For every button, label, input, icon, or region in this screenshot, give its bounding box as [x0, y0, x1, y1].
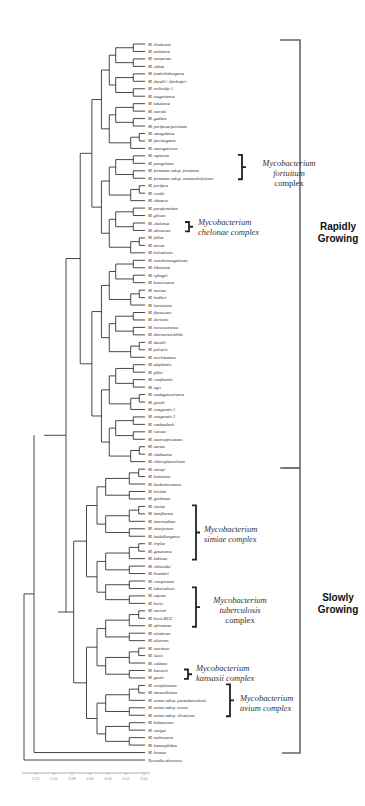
group-label-simiae: Mycobacterium simiae complex [204, 524, 294, 544]
taxon-label: M. goodii [147, 400, 166, 405]
taxon-label: M. novocastrense [147, 325, 178, 330]
taxon-label: M. malmoense [147, 735, 173, 740]
taxon-label: M. shimoidei [147, 564, 171, 569]
taxon-label: M. moriokaense [147, 355, 176, 360]
group-label-line: tuberculosis [205, 605, 275, 615]
taxon-label: M. komossense [147, 280, 174, 285]
taxon-label: M. africanum [147, 623, 171, 628]
taxon-label: M. haemophilum [147, 743, 177, 748]
taxon-label: M. hassiacum [147, 303, 172, 308]
taxon-label: M. elephantis [147, 362, 172, 367]
taxon-label: M. phlei [147, 370, 163, 375]
taxon-label: M. lentiflavum [147, 511, 173, 516]
taxon-label: M. septicum [147, 153, 169, 158]
taxon-label: M. farcinogenes [147, 138, 176, 143]
taxon-label: M. duvalii [147, 340, 166, 345]
taxon-label: M. chlorophenolicum [147, 459, 185, 464]
taxon-label: M. thermoresistibile [147, 332, 183, 337]
taxon-label: M. hiberniae [147, 265, 170, 270]
taxon-label: M. wolinskyi 1 [147, 86, 173, 91]
taxon-label: M. chitae [147, 64, 164, 69]
taxon-label: M. chelonae [147, 221, 169, 226]
taxon-label: M. agri [147, 385, 162, 390]
taxon-label: M. branae [147, 750, 166, 755]
group-label-line: Mycobacterium [196, 663, 291, 673]
scale-tick-label: 0.12 [33, 777, 40, 781]
taxon-label: M. porifera [147, 183, 168, 188]
phylogenetic-tree: M. rhodesiaeM. aichienseM. neoaurumM. ch… [0, 0, 365, 806]
taxon-label: M. fallax [147, 235, 164, 240]
taxon-label: M. murale [147, 109, 166, 114]
taxon-label: M. triviale [147, 489, 166, 494]
scale-tick-label: 0.06 [87, 777, 94, 781]
taxon-label: M. tusciae [147, 288, 166, 293]
taxon-label: M. bovis BCG [147, 616, 173, 621]
taxon-label: M. genavense [147, 549, 172, 554]
taxon-label: M. szulgai [147, 728, 167, 733]
rapidly-growing-label: Rapidly Growing [312, 221, 364, 245]
slowly-growing-label: Slowly Growing [312, 592, 364, 616]
taxon-label: M. fortuitum subsp. fortuitum [147, 168, 199, 173]
simiae-bracket [192, 505, 200, 559]
taxon-label: M. austroafricanum [147, 437, 182, 442]
group-label-line: Mycobacterium [240, 693, 330, 703]
taxon-label: M. senegalense [147, 131, 175, 136]
taxon-label: M. hodleri [147, 295, 167, 300]
group-label-avium: Mycobacterium avium complex [240, 693, 330, 713]
taxon-label: M. mucogenicum [147, 146, 178, 151]
taxon-label: M. botniense [147, 474, 170, 479]
growth-label-line: Rapidly [312, 221, 364, 233]
taxon-label: M. triplex [147, 541, 165, 546]
taxon-label: M. doricum [147, 317, 168, 322]
taxon-label: M. aurum [147, 444, 165, 449]
taxon-label: M. xenopi [147, 467, 166, 472]
growth-label-line: Growing [312, 604, 364, 616]
taxon-label: M. parafortuitum [147, 206, 178, 211]
growth-label-line: Growing [312, 233, 364, 245]
taxon-label: M. mageritense [147, 94, 175, 99]
avium-bracket [226, 684, 234, 716]
taxon-label: M. vanbaalenii [147, 422, 175, 427]
taxon-label: M. gastri [147, 675, 165, 680]
taxon-label: M. flavescens [147, 310, 172, 315]
taxon-label: M. scrofulaceum [147, 683, 177, 688]
taxon-label: M. caprae [147, 593, 166, 598]
group-label-line: kansasii complex [196, 673, 291, 683]
taxon-label: M. avium subsp. avium [147, 705, 188, 710]
taxon-label: M. duvalii / dierhoferi [147, 79, 187, 84]
group-label-fortuitum: Mycobacterium fortuitum complex [254, 158, 324, 188]
taxon-label: M. terrae [147, 243, 164, 248]
taxon-label: M. bohemicum [147, 720, 174, 725]
taxon-label: M. nonchromogenicum [147, 258, 188, 263]
taxon-label: M. interjectum [147, 526, 173, 531]
group-label-line: Mycobacterium [205, 595, 275, 605]
taxon-label: M. holsaticum [147, 250, 173, 255]
taxon-label: M. gadium [147, 116, 167, 121]
taxon-label: M. heckeshornense [147, 482, 181, 487]
taxon-label: M. gilvum [147, 213, 165, 218]
taxon-label: M. intermedium [147, 519, 175, 524]
taxon-label: M. conspicuum [147, 579, 174, 584]
taxon-label: M. celatum [147, 661, 167, 666]
taxon-label: M. aichiense [147, 49, 170, 54]
scale-tick-label: 0.08 [69, 777, 76, 781]
taxon-label: M. cookii [147, 191, 165, 196]
scale-tick-label: 0.00 [141, 777, 148, 781]
taxon-label: Nocardia abscessus [147, 758, 182, 763]
group-label-line: simiae complex [204, 534, 294, 544]
taxon-label: M. tuberculosis [147, 586, 175, 591]
group-label-line: Mycobacterium [254, 158, 324, 168]
group-label-line: chelonae complex [198, 227, 288, 237]
taxon-label: M. ulcerans [147, 638, 169, 643]
taxon-label: M. marinum [147, 646, 169, 651]
taxon-label: M. chubuense [147, 452, 172, 457]
taxon-label: M. lacus [147, 653, 163, 658]
group-label-line: fortuitum [254, 168, 324, 178]
taxon-label: M. avium subsp. silvaticum [147, 713, 195, 718]
taxon-label: M. sphagni [147, 273, 168, 278]
taxon-label: M. heidelbergense [147, 534, 180, 539]
taxon-label: M. abscessus [147, 228, 171, 233]
taxon-label: M. smegmatis 1 [147, 407, 175, 412]
fortuitum-bracket [238, 155, 246, 179]
taxon-label: M. bovis [147, 601, 163, 606]
